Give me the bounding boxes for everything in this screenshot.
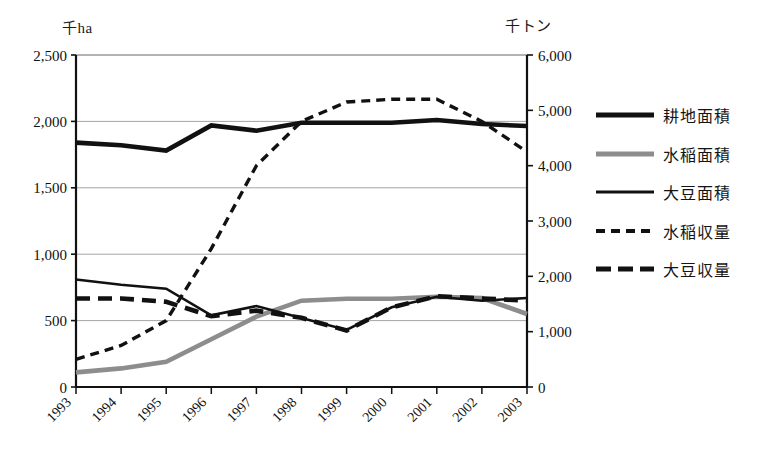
right-tick-label-0: 0 [538,380,546,396]
x-tick-label-1998: 1998 [269,395,299,425]
legend-label-daizu-menseki: 大豆面積 [663,180,731,204]
right-tick-label-6000: 6,000 [538,48,572,64]
legend-label-daizu-shuuryou: 大豆収量 [663,257,731,281]
series-line-daizu-menseki [76,279,527,329]
left-tick-label-2500: 2,500 [33,48,67,64]
x-tick-label-1999: 1999 [314,395,344,425]
x-tick-label-2003: 2003 [495,395,525,425]
x-tick-label-1995: 1995 [134,395,164,425]
legend-label-kouchi: 耕地面積 [663,103,731,127]
legend-swatch-daizu-menseki [596,185,654,199]
right-tick-label-5000: 5,000 [538,103,572,119]
legend-label-suitou-menseki: 水稲面積 [663,142,731,166]
left-tick-label-1500: 1,500 [33,180,67,196]
x-tick-label-2000: 2000 [359,395,389,425]
x-tick-label-2002: 2002 [450,395,480,425]
x-tick-label-2001: 2001 [405,395,435,425]
series-line-kouchi-menseki [76,120,527,151]
legend-swatch-suitou-menseki [596,147,654,161]
legend-item-0: 耕地面積 [596,96,759,135]
x-tick-label-1994: 1994 [89,395,119,425]
right-tick-label-4000: 4,000 [538,158,572,174]
left-tick-label-0: 0 [60,380,68,396]
right-tick-label-3000: 3,000 [538,214,572,230]
x-tick-label-1993: 1993 [44,395,74,425]
x-tick-label-1996: 1996 [179,395,209,425]
legend-item-4: 大豆収量 [596,250,759,289]
chart-legend: 耕地面積 水稲面積 大豆面積 水稲収量 大豆収量 [596,96,759,289]
chart-page: 千ha 千トン 2,5002,0001,5001,00050006,0005,0… [0,0,759,452]
series-line-suitou-menseki [76,297,527,373]
right-tick-label-2000: 2,000 [538,269,572,285]
left-tick-label-2000: 2,000 [33,114,67,130]
left-tick-label-1000: 1,000 [33,247,67,263]
x-tick-label-1997: 1997 [224,395,254,425]
legend-swatch-daizu-shuuryou [596,262,654,276]
left-tick-label-500: 500 [45,313,68,329]
legend-swatch-kouchi [596,108,654,122]
legend-item-2: 大豆面積 [596,173,759,212]
legend-item-1: 水稲面積 [596,135,759,174]
legend-label-suitou-shuuryou: 水稲収量 [663,219,731,243]
legend-swatch-suitou-shuuryou [596,224,654,238]
legend-item-3: 水稲収量 [596,212,759,251]
right-tick-label-1000: 1,000 [538,324,572,340]
